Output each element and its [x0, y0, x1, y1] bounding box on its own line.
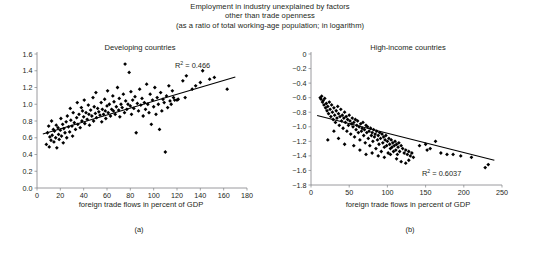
x-tick-label: 200 — [458, 188, 470, 197]
panel-b-letter: (b) — [270, 225, 540, 234]
y-tick-label: 0.6 — [23, 133, 33, 142]
panel-a-xaxis-label: foreign trade flows in percent of GDP — [0, 200, 270, 209]
r-squared-annotation: R2 = 0.6037 — [422, 168, 461, 178]
x-tick-label: 100 — [381, 188, 393, 197]
y-tick-label: −0.2 — [292, 64, 306, 73]
x-tick-label: 40 — [80, 191, 88, 200]
x-tick-label: 120 — [171, 191, 183, 200]
y-tick-label: 1.0 — [23, 100, 33, 109]
trendline — [43, 77, 236, 134]
x-tick-label: 0 — [35, 191, 39, 200]
trendline — [317, 115, 494, 160]
y-tick-label: 0.4 — [23, 150, 33, 159]
r-squared-annotation: R2 = 0.466 — [175, 60, 210, 70]
data-points — [318, 94, 490, 169]
y-tick-label: −0.6 — [292, 93, 306, 102]
y-tick-label: 0.2 — [23, 167, 33, 176]
x-tick-label: 140 — [194, 191, 206, 200]
x-tick-label: 0 — [309, 188, 313, 197]
supertitle-line-2: other than trade openness — [0, 11, 540, 20]
panel-a-letter: (a) — [0, 225, 270, 234]
panel-high-income-countries: High-income countries 0−0.2−0.4−0.6−0.8−… — [270, 40, 540, 254]
y-tick-label: −1.0 — [292, 122, 306, 131]
figure-container: Employment in industry unexplained by fa… — [0, 0, 540, 254]
supertitle-line-1: Employment in industry unexplained by fa… — [0, 2, 540, 11]
x-tick-label: 150 — [420, 188, 432, 197]
x-tick-label: 100 — [148, 191, 160, 200]
y-tick-label: 1.4 — [23, 66, 33, 75]
x-tick-label: 80 — [126, 191, 134, 200]
y-tick-label: 1.2 — [23, 83, 33, 92]
y-tick-label: −0.8 — [292, 108, 306, 117]
y-tick-label: 0 — [303, 50, 307, 59]
scatter-plot-high-income: 0−0.2−0.4−0.6−0.8−1.0−1.2−1.4−1.6−1.8050… — [270, 40, 540, 220]
y-tick-label: −1.2 — [292, 137, 306, 146]
x-tick-label: 20 — [56, 191, 64, 200]
y-tick-label: −1.6 — [292, 166, 306, 175]
x-tick-label: 50 — [345, 188, 353, 197]
panel-developing-countries: Developing countries 0.00.20.40.60.81.01… — [0, 40, 270, 254]
x-tick-label: 250 — [496, 188, 508, 197]
x-tick-label: 180 — [241, 191, 253, 200]
supertitle-line-3: (as a ratio of total working-age populat… — [0, 21, 540, 30]
y-tick-label: 0.0 — [23, 184, 33, 193]
data-points — [44, 62, 229, 154]
y-tick-label: −1.4 — [292, 151, 306, 160]
x-tick-label: 60 — [103, 191, 111, 200]
figure-supertitle: Employment in industry unexplained by fa… — [0, 2, 540, 30]
x-tick-label: 160 — [218, 191, 230, 200]
y-tick-label: 0.8 — [23, 117, 33, 126]
scatter-plot-developing: 0.00.20.40.60.81.01.21.41.60204060801001… — [0, 40, 270, 220]
y-tick-label: 1.6 — [23, 50, 33, 59]
y-tick-label: −0.4 — [292, 79, 306, 88]
panel-b-xaxis-label: foreign trade flows in percent of GDP — [270, 200, 540, 209]
y-tick-label: −1.8 — [292, 181, 306, 190]
